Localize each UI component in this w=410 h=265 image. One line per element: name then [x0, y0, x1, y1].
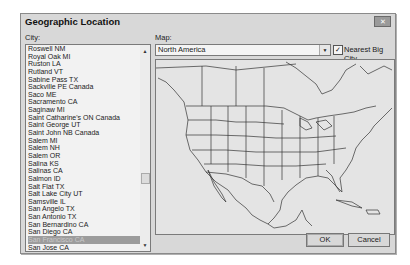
north-america-map-icon	[156, 60, 394, 234]
city-list: Roswell NMRoyal Oak MIRuston LARutland V…	[26, 45, 150, 251]
map-select-value: North America	[158, 45, 206, 54]
chevron-down-icon[interactable]: ▼	[319, 45, 330, 55]
nearest-big-city-checkbox[interactable]: ✓	[333, 45, 343, 55]
city-list-item[interactable]: Saint Catharine's ON Canada	[28, 114, 150, 122]
map-view[interactable]	[155, 59, 395, 235]
city-list-item[interactable]: San Diego CA	[28, 228, 150, 236]
city-list-item[interactable]: Salt Lake City UT	[28, 190, 150, 198]
close-icon[interactable]: ✕	[374, 16, 391, 27]
city-list-item[interactable]: Rutland VT	[28, 68, 150, 76]
city-list-item[interactable]: Samsville IL	[28, 198, 150, 206]
city-list-item[interactable]: Royal Oak MI	[28, 53, 150, 61]
city-list-item[interactable]: Salmon ID	[28, 175, 150, 183]
city-list-item[interactable]: Salem NH	[28, 144, 150, 152]
city-list-item[interactable]: San Bernardino CA	[28, 221, 150, 229]
ok-button[interactable]: OK	[306, 233, 344, 247]
city-list-item[interactable]: Salinas CA	[28, 167, 150, 175]
map-label: Map:	[155, 33, 172, 42]
city-list-item[interactable]: San Jose CA	[28, 244, 150, 252]
city-list-item[interactable]: San Francisco CA	[28, 236, 140, 244]
city-label: City:	[25, 33, 40, 42]
city-list-item[interactable]: Salem OR	[28, 152, 150, 160]
city-list-item[interactable]: Roswell NM	[28, 45, 150, 53]
city-list-item[interactable]: Ruston LA	[28, 60, 150, 68]
city-list-item[interactable]: Sacramento CA	[28, 98, 150, 106]
scroll-thumb[interactable]	[141, 173, 150, 184]
city-list-item[interactable]: Saint John NB Canada	[28, 129, 150, 137]
city-listbox[interactable]: Roswell NMRoyal Oak MIRuston LARutland V…	[25, 44, 151, 252]
map-select[interactable]: North America ▼	[155, 44, 331, 56]
geographic-location-dialog: Geographic Location ✕ City: Roswell NMRo…	[20, 13, 396, 254]
city-list-scrollbar[interactable]: ▲ ▼	[140, 45, 150, 251]
cancel-button[interactable]: Cancel	[348, 233, 390, 247]
title-bar: Geographic Location ✕	[21, 14, 395, 28]
city-list-item[interactable]: Sackville PE Canada	[28, 83, 150, 91]
city-list-item[interactable]: Saginaw MI	[28, 106, 150, 114]
scroll-down-arrow-icon[interactable]: ▼	[140, 241, 150, 249]
city-list-item[interactable]: Saint George UT	[28, 121, 150, 129]
city-list-item[interactable]: Sabine Pass TX	[28, 76, 150, 84]
city-list-item[interactable]: San Angelo TX	[28, 205, 150, 213]
city-list-item[interactable]: San Antonio TX	[28, 213, 150, 221]
dialog-title: Geographic Location	[25, 16, 120, 27]
city-list-item[interactable]: Salt Flat TX	[28, 183, 150, 191]
city-list-item[interactable]: Salem MI	[28, 137, 150, 145]
city-list-item[interactable]: Saco ME	[28, 91, 150, 99]
city-list-item[interactable]: Salina KS	[28, 160, 150, 168]
scroll-up-arrow-icon[interactable]: ▲	[140, 47, 150, 55]
